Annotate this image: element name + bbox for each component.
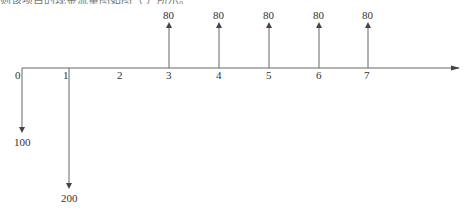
outflow-1: 200 — [61, 68, 78, 204]
inflow-amount-6: 80 — [313, 9, 325, 21]
inflow-6: 80 — [313, 9, 325, 68]
inflow-amount-3: 80 — [163, 9, 175, 21]
inflow-amount-7: 80 — [362, 9, 374, 21]
period-label-1: 1 — [63, 69, 69, 81]
period-label-2: 2 — [117, 69, 123, 81]
period-label-4: 4 — [216, 69, 222, 81]
period-label-5: 5 — [266, 69, 272, 81]
inflow-7: 80 — [362, 9, 374, 68]
inflow-amount-4: 80 — [213, 9, 225, 21]
inflow-5: 80 — [263, 9, 275, 68]
period-label-3: 3 — [166, 69, 172, 81]
inflow-amount-5: 80 — [263, 9, 275, 21]
period-label-7: 7 — [364, 69, 370, 81]
period-label-6: 6 — [316, 69, 322, 81]
cash-flow-diagram: 0 1 2 3 4 5 6 7 100 200 80 80 80 80 80 — [0, 0, 469, 213]
inflow-4: 80 — [213, 9, 225, 68]
period-labels: 0 1 2 3 4 5 6 7 — [15, 69, 370, 81]
period-label-0: 0 — [15, 69, 21, 81]
inflow-3: 80 — [163, 9, 175, 68]
outflow-amount-0: 100 — [14, 136, 31, 148]
outflow-amount-1: 200 — [61, 192, 78, 204]
